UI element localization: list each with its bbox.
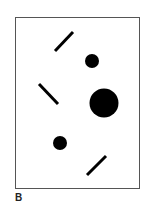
- small-dot-1: [85, 54, 99, 68]
- large-dot: [90, 89, 119, 118]
- figure-shapes: [0, 0, 150, 212]
- small-dot-2: [53, 136, 67, 150]
- figure-label: B: [15, 192, 22, 203]
- diagonal-bar-1: [55, 32, 73, 51]
- diagonal-bar-2: [39, 84, 58, 104]
- diagonal-bar-3: [87, 156, 106, 175]
